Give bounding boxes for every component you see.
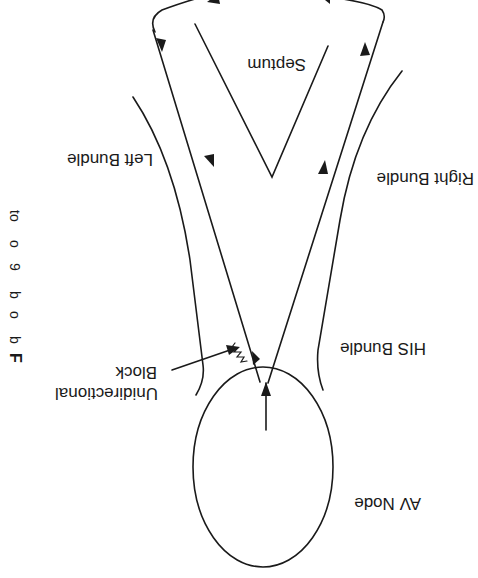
caption-char-6: to bbox=[7, 210, 23, 222]
label-his-bundle: HIS Bundle bbox=[340, 339, 426, 358]
caption-char-5: o bbox=[7, 240, 23, 248]
arrow-top-left bbox=[207, 0, 220, 4]
caption-char-3: b bbox=[7, 291, 23, 299]
label-septum: Septum bbox=[247, 55, 306, 74]
arrow-top-right bbox=[320, 0, 330, 4]
septum-shape bbox=[195, 24, 328, 177]
label-unidirectional: Unidirectional bbox=[55, 384, 158, 403]
label-right-bundle: Right Bundle bbox=[377, 169, 474, 188]
reentry-top-arc-right bbox=[322, 0, 384, 22]
arrow-right-limb-upper bbox=[360, 42, 370, 56]
label-left-bundle: Left Bundle bbox=[67, 150, 153, 169]
arrow-right-limb-lower bbox=[318, 160, 328, 174]
caption-char-4: 9 bbox=[7, 263, 23, 271]
reentry-top-arc bbox=[153, 0, 218, 32]
reentry-diagram: Septum Left Bundle Right Bundle HIS Bund… bbox=[0, 0, 478, 578]
arrow-av-incoming bbox=[261, 382, 271, 396]
reentry-right-limb bbox=[268, 22, 383, 383]
caption-char-1: b bbox=[7, 336, 23, 344]
arrow-left-limb-lower bbox=[204, 154, 214, 167]
label-block: Block bbox=[115, 363, 157, 382]
caption-char-2: o bbox=[7, 311, 23, 319]
block-zigzag bbox=[232, 343, 247, 362]
arrow-block-attempt bbox=[252, 351, 260, 365]
av-node-shape bbox=[193, 367, 333, 567]
left-outer-wall bbox=[133, 97, 203, 395]
reentry-left-limb bbox=[153, 30, 260, 382]
label-av-node: AV Node bbox=[354, 494, 421, 513]
caption-initial: F bbox=[7, 353, 24, 363]
block-pointer-arrowhead bbox=[226, 345, 240, 355]
